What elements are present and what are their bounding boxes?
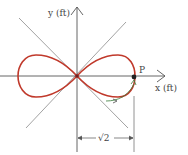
dimension-arrow-left-icon [78,136,82,140]
lemniscate-diagram: P √2 x (ft) y (ft) [0,0,188,155]
origin-point [75,74,79,78]
y-axis-label: y (ft) [47,8,70,18]
dimension-label: √2 [98,133,109,143]
dimension-arrow-right-icon [129,136,133,140]
x-axis-label: x (ft) [155,83,177,93]
point-p-label: P [139,65,145,75]
point-p [132,75,137,80]
